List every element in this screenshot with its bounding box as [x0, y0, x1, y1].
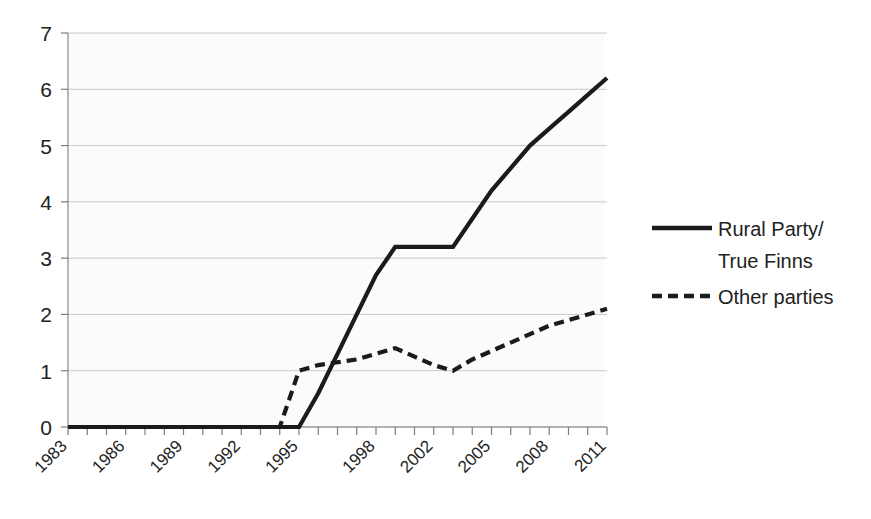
y-tick-label: 1 — [40, 360, 52, 383]
y-tick-label: 7 — [40, 22, 52, 45]
series-line-1 — [68, 309, 607, 427]
x-tick-label: 2002 — [396, 436, 436, 476]
x-tick-label: 1983 — [31, 436, 71, 476]
axes — [68, 33, 607, 427]
y-tick-label: 3 — [40, 247, 52, 270]
y-tick-label: 4 — [40, 191, 52, 214]
chart-legend: Rural Party/ True Finns Other parties — [652, 218, 834, 308]
y-tick-label: 2 — [40, 303, 52, 326]
y-axis-tick-labels: 01234567 — [40, 22, 52, 439]
y-axis-ticks — [61, 33, 68, 427]
series-line-0 — [68, 78, 607, 427]
legend-entry-0-line1: Rural Party/ — [718, 218, 824, 240]
y-tick-label: 5 — [40, 135, 52, 158]
legend-entry-1-line1: Other parties — [718, 286, 834, 308]
y-tick-label: 0 — [40, 416, 52, 439]
x-tick-label: 1989 — [146, 436, 186, 476]
x-tick-label: 2005 — [454, 436, 494, 476]
x-tick-label: 1992 — [204, 436, 244, 476]
line-chart: 01234567 1983198619891992199519982002200… — [0, 0, 871, 519]
gridlines — [68, 33, 607, 371]
legend-entry-0-line2: True Finns — [718, 250, 813, 272]
x-tick-label: 1986 — [88, 436, 128, 476]
series-layer — [68, 78, 607, 427]
chart-canvas: 01234567 1983198619891992199519982002200… — [0, 0, 871, 519]
x-tick-label: 1998 — [339, 436, 379, 476]
x-tick-label: 2011 — [571, 436, 610, 475]
x-axis-tick-labels: 1983198619891992199519982002200520082011 — [31, 436, 610, 476]
x-tick-label: 2008 — [512, 436, 552, 476]
y-tick-label: 6 — [40, 78, 52, 101]
x-tick-label: 1995 — [262, 436, 302, 476]
